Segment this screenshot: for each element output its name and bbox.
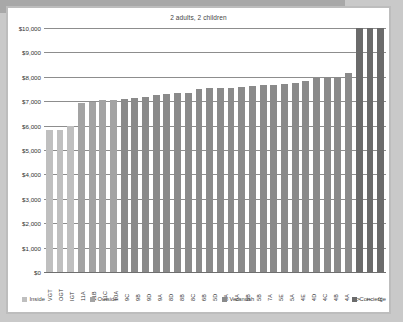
bar[interactable] bbox=[206, 88, 213, 272]
bar[interactable] bbox=[238, 87, 245, 272]
bar-slot[interactable] bbox=[301, 28, 312, 272]
bar[interactable] bbox=[281, 84, 288, 272]
bar-slot[interactable] bbox=[140, 28, 151, 272]
bar[interactable] bbox=[217, 88, 224, 272]
bar[interactable] bbox=[67, 126, 74, 272]
bar-slot[interactable] bbox=[354, 28, 365, 272]
legend-label: Outside bbox=[98, 296, 118, 302]
bar[interactable] bbox=[153, 95, 160, 272]
bar-slot[interactable] bbox=[279, 28, 290, 272]
bar-slot[interactable] bbox=[236, 28, 247, 272]
bar[interactable] bbox=[260, 85, 267, 272]
chart-legend: InsideOutsideVerandahConcierge bbox=[22, 296, 379, 306]
bar[interactable] bbox=[99, 100, 106, 273]
chart-page: 2 adults, 2 children $10,000$9,000$8,000… bbox=[0, 0, 403, 322]
y-axis-labels: $10,000$9,000$8,000$7,000$6,000$5,000$4,… bbox=[8, 8, 44, 312]
bar[interactable] bbox=[345, 73, 352, 272]
bar-slot[interactable] bbox=[108, 28, 119, 272]
bar-slot[interactable] bbox=[44, 28, 55, 272]
bar-slot[interactable] bbox=[343, 28, 354, 272]
legend-swatch-icon bbox=[90, 297, 95, 302]
bar-slot[interactable] bbox=[290, 28, 301, 272]
y-axis-tick-label: $8,000 bbox=[22, 73, 41, 80]
bar-slot[interactable] bbox=[162, 28, 173, 272]
bar[interactable] bbox=[163, 94, 170, 272]
legend-item-outside[interactable]: Outside bbox=[90, 296, 117, 302]
bar[interactable] bbox=[228, 88, 235, 272]
bar[interactable] bbox=[89, 102, 96, 272]
y-axis-tick-label: $1,000 bbox=[22, 244, 41, 251]
bar[interactable] bbox=[185, 93, 192, 272]
y-axis-tick-label: $10,000 bbox=[19, 25, 41, 32]
plot-area: $10,000$9,000$8,000$7,000$6,000$5,000$4,… bbox=[8, 8, 389, 312]
y-axis-tick-label: $5,000 bbox=[22, 147, 41, 154]
bar-slot[interactable] bbox=[76, 28, 87, 272]
bar-slot[interactable] bbox=[194, 28, 205, 272]
bar-series bbox=[44, 28, 386, 272]
bar-slot[interactable] bbox=[130, 28, 141, 272]
bar[interactable] bbox=[377, 28, 384, 272]
y-axis-tick-label: $2,000 bbox=[22, 220, 41, 227]
bar-slot[interactable] bbox=[119, 28, 130, 272]
chart-card: 2 adults, 2 children $10,000$9,000$8,000… bbox=[6, 6, 391, 314]
legend-label: Inside bbox=[30, 296, 45, 302]
bar[interactable] bbox=[270, 85, 277, 272]
bar[interactable] bbox=[57, 130, 64, 272]
gridline bbox=[44, 272, 386, 273]
bar[interactable] bbox=[174, 93, 181, 272]
bar-slot[interactable] bbox=[55, 28, 66, 272]
bar[interactable] bbox=[334, 77, 341, 272]
legend-swatch-icon bbox=[222, 297, 227, 302]
bar[interactable] bbox=[324, 77, 331, 272]
bar[interactable] bbox=[249, 86, 256, 272]
y-axis-tick-label: $7,000 bbox=[22, 98, 41, 105]
bar-slot[interactable] bbox=[268, 28, 279, 272]
legend-swatch-icon bbox=[352, 297, 357, 302]
bar-slot[interactable] bbox=[87, 28, 98, 272]
bar-slot[interactable] bbox=[151, 28, 162, 272]
bar-slot[interactable] bbox=[215, 28, 226, 272]
bar-slot[interactable] bbox=[97, 28, 108, 272]
bar-slot[interactable] bbox=[65, 28, 76, 272]
bar[interactable] bbox=[142, 97, 149, 272]
bar[interactable] bbox=[313, 78, 320, 272]
legend-label: Verandah bbox=[230, 296, 255, 302]
legend-swatch-icon bbox=[22, 297, 27, 302]
bar[interactable] bbox=[356, 28, 363, 272]
bar-slot[interactable] bbox=[311, 28, 322, 272]
bar-slot[interactable] bbox=[258, 28, 269, 272]
bar-slot[interactable] bbox=[247, 28, 258, 272]
bar[interactable] bbox=[131, 98, 138, 272]
bar-slot[interactable] bbox=[365, 28, 376, 272]
y-axis-tick-label: $6,000 bbox=[22, 122, 41, 129]
legend-item-concierge[interactable]: Concierge bbox=[352, 296, 386, 302]
bar-slot[interactable] bbox=[226, 28, 237, 272]
legend-item-inside[interactable]: Inside bbox=[22, 296, 45, 302]
legend-label: Concierge bbox=[360, 296, 386, 302]
bar[interactable] bbox=[292, 83, 299, 272]
bar-slot[interactable] bbox=[183, 28, 194, 272]
bar-slot[interactable] bbox=[204, 28, 215, 272]
bar[interactable] bbox=[196, 89, 203, 272]
bar[interactable] bbox=[110, 100, 117, 273]
bar[interactable] bbox=[367, 28, 374, 272]
y-axis-tick-label: $3,000 bbox=[22, 195, 41, 202]
bar-slot[interactable] bbox=[375, 28, 386, 272]
bar-slot[interactable] bbox=[172, 28, 183, 272]
bar-slot[interactable] bbox=[322, 28, 333, 272]
bar[interactable] bbox=[121, 99, 128, 272]
bar[interactable] bbox=[302, 81, 309, 272]
y-axis-tick-label: $4,000 bbox=[22, 171, 41, 178]
y-axis-tick-label: $0 bbox=[34, 269, 41, 276]
y-axis-tick-label: $9,000 bbox=[22, 49, 41, 56]
bar[interactable] bbox=[78, 103, 85, 272]
legend-item-verandah[interactable]: Verandah bbox=[222, 296, 254, 302]
bar[interactable] bbox=[46, 130, 53, 272]
bar-slot[interactable] bbox=[333, 28, 344, 272]
